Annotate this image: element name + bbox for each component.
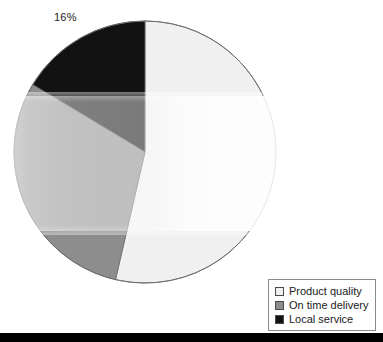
legend-swatch-icon-product-quality: [275, 287, 284, 296]
legend-swatch-icon-local-service: [275, 315, 284, 324]
legend-item-on-time-delivery[interactable]: On time delivery: [275, 298, 370, 312]
pie-chart-figure: 16% Product quality On time delivery Loc…: [0, 0, 383, 342]
legend-label-product-quality: Product quality: [289, 285, 362, 298]
legend-swatch-icon-on-time-delivery: [275, 301, 284, 310]
legend-label-local-service: Local service: [289, 313, 353, 326]
slice-percent-label-local-service: 16%: [54, 11, 77, 23]
chart-legend: Product quality On time delivery Local s…: [268, 279, 376, 331]
legend-item-local-service[interactable]: Local service: [275, 312, 370, 326]
legend-label-on-time-delivery: On time delivery: [289, 299, 368, 312]
bottom-rule: [0, 333, 383, 342]
pie-slice-group: [14, 21, 276, 283]
legend-item-product-quality[interactable]: Product quality: [275, 284, 370, 298]
